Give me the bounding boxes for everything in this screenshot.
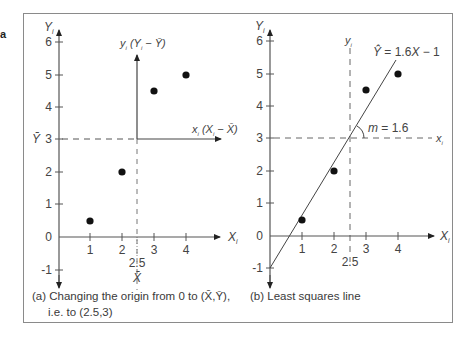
x-axis-title: Xi <box>439 229 450 244</box>
svg-text:3: 3 <box>45 132 52 146</box>
regression-equation: Ŷ = 1.6X − 1 <box>373 44 440 59</box>
svg-text:4: 4 <box>395 242 402 256</box>
svg-text:2: 2 <box>331 242 338 256</box>
panel-a: 6 5 4 3 2 1 0 -1 Ȳ 1 2 3 4 2.5 X̄ Yi Xi … <box>32 20 238 290</box>
svg-text:-1: -1 <box>252 261 263 275</box>
x-mean-label: X̄ <box>132 271 142 285</box>
svg-text:5: 5 <box>256 67 263 81</box>
caption-b: (b) Least squares line <box>250 288 361 304</box>
svg-text:1: 1 <box>45 197 52 211</box>
y-mean-label: Ȳ <box>32 132 41 146</box>
y-axis-title: Yi <box>44 20 54 35</box>
svg-text:2: 2 <box>45 165 52 179</box>
x-tick-labels: 1 2 3 4 <box>87 243 190 257</box>
svg-text:3: 3 <box>151 243 158 257</box>
point-4 <box>182 71 189 78</box>
y-axis-title: Yi <box>255 19 265 34</box>
svg-text:6: 6 <box>256 34 263 48</box>
point-4 <box>394 70 401 77</box>
regression-line <box>270 60 396 268</box>
x-axis-title: Xi <box>227 230 238 245</box>
svg-text:2: 2 <box>256 164 263 178</box>
y-tick-labels: 6 5 4 3 2 1 0 -1 <box>252 34 263 275</box>
slope-angle-arc <box>357 126 364 138</box>
y-tick-labels: 6 5 4 3 2 1 0 -1 <box>41 35 52 277</box>
point-2 <box>118 168 125 175</box>
svg-text:3: 3 <box>363 242 370 256</box>
caption-a-line1: (a) Changing the origin from 0 to (X̄,Ȳ)… <box>32 288 230 304</box>
point-1 <box>298 216 305 223</box>
new-x-axis-title: xi (Xi − X̄) <box>191 123 238 137</box>
svg-text:0: 0 <box>45 230 52 244</box>
svg-text:5: 5 <box>45 68 52 82</box>
svg-text:2: 2 <box>119 243 126 257</box>
point-3 <box>362 86 369 93</box>
data-points <box>86 71 189 224</box>
svg-text:6: 6 <box>45 35 52 49</box>
svg-text:1: 1 <box>299 242 306 256</box>
panel-b: 6 5 4 3 2 1 0 -1 1 2 3 4 2.5 Yi Xi yi xi… <box>252 19 450 288</box>
x-mean-value: 2.5 <box>342 255 359 269</box>
svg-text:1: 1 <box>256 196 263 210</box>
point-3 <box>150 87 157 94</box>
svg-text:3: 3 <box>256 131 263 145</box>
x-mean-value: 2.5 <box>129 256 146 270</box>
new-x-axis-title: xi <box>435 132 444 146</box>
svg-text:1: 1 <box>87 243 94 257</box>
point-1 <box>86 217 93 224</box>
svg-text:0: 0 <box>256 229 263 243</box>
svg-text:4: 4 <box>45 100 52 114</box>
new-y-axis-title: yi <box>344 34 353 48</box>
svg-text:4: 4 <box>256 99 263 113</box>
new-y-axis-title: yi (Yi − Ȳ) <box>119 37 166 51</box>
caption-a-line2: i.e. to (2.5,3) <box>48 304 113 320</box>
svg-text:4: 4 <box>183 243 190 257</box>
slope-label: m = 1.6 <box>368 121 409 135</box>
point-2 <box>330 167 337 174</box>
svg-text:-1: -1 <box>41 263 52 277</box>
